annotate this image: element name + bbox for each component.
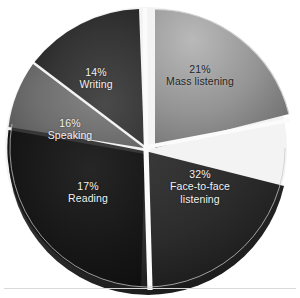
separator-writing-mass bbox=[145, 8, 146, 148]
pie-chart-graphic bbox=[0, 0, 300, 298]
separator-hub bbox=[143, 144, 150, 151]
pie-slice-reading[interactable] bbox=[7, 130, 145, 287]
pie-chart-figure: 21% Mass listening 32% Face-to-face list… bbox=[0, 0, 300, 298]
figure-baseline-rule bbox=[4, 288, 296, 289]
